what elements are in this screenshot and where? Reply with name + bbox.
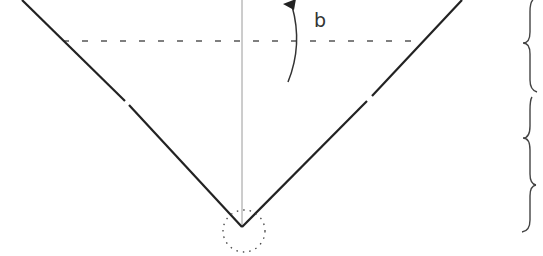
right-diagonal-line — [242, 0, 462, 227]
left-diagonal-line — [22, 0, 242, 227]
lower-brace-icon — [522, 185, 536, 232]
v-fold-diagram: b — [0, 0, 543, 256]
middle-brace-icon — [523, 97, 536, 185]
apex-dotted-circle — [223, 210, 265, 252]
upper-brace-icon — [523, 0, 537, 92]
rotation-label: b — [314, 9, 326, 31]
